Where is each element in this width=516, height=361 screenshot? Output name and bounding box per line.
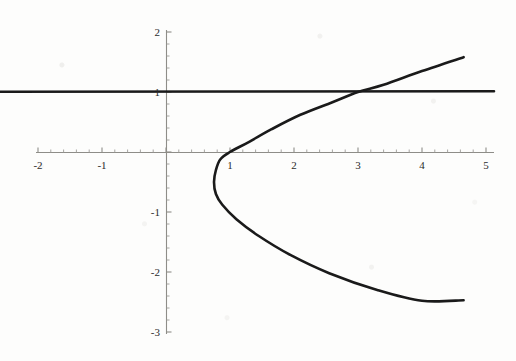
y-tick-label--1: -1 xyxy=(140,207,160,218)
x-axis xyxy=(36,148,494,153)
x-tick-label-1: 1 xyxy=(227,160,233,171)
y-axis xyxy=(167,30,172,334)
x-tick-label-5: 5 xyxy=(483,160,489,171)
plot-figure: -2 -1 1 2 3 4 5 2 1 -1 -2 -3 xyxy=(0,0,516,361)
y-tick-label--3: -3 xyxy=(140,327,160,338)
series-horizontal-line xyxy=(0,91,494,92)
x-tick-label--1: -1 xyxy=(97,160,106,171)
series-parabola xyxy=(214,57,464,301)
x-tick-label-4: 4 xyxy=(419,160,425,171)
x-tick-label-2: 2 xyxy=(291,160,297,171)
plot-canvas xyxy=(0,0,516,361)
x-tick-label-3: 3 xyxy=(355,160,361,171)
x-tick-label--2: -2 xyxy=(33,160,42,171)
y-tick-label--2: -2 xyxy=(140,267,160,278)
y-tick-label-1: 1 xyxy=(146,87,160,98)
y-tick-label-2: 2 xyxy=(146,27,160,38)
